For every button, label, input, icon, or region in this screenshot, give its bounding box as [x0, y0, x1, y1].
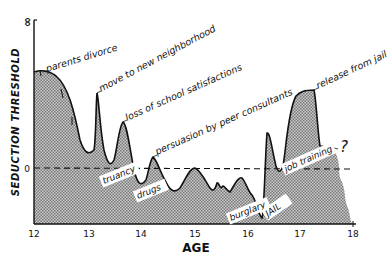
chart: 0 ∞ 12 13 14 15 16 17 18 AGE SEDUCTION T…	[0, 0, 388, 261]
x-axis-title: AGE	[182, 241, 209, 255]
x-tick-14: 14	[135, 229, 147, 239]
annotation-parents-divorce: parents divorce	[43, 42, 118, 75]
x-tick-17: 17	[294, 229, 305, 239]
y-tick-infinity: ∞	[21, 17, 35, 27]
x-tick-18: 18	[347, 229, 359, 239]
x-tick-16: 16	[242, 229, 254, 239]
annotation-question: ?	[340, 138, 348, 156]
annotation-release: release from jail	[314, 48, 388, 91]
y-axis-title: SEDUCTION THRESHOLD	[10, 48, 21, 197]
x-tick-15: 15	[189, 229, 200, 239]
y-tick-zero: 0	[24, 164, 30, 174]
x-tick-13: 13	[83, 229, 94, 239]
x-tick-12: 12	[28, 229, 39, 239]
